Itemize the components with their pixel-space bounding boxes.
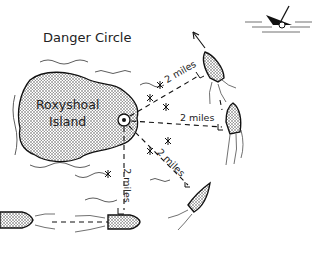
lighthouse-icon xyxy=(118,114,130,126)
island-name-line1: Roxyshoal xyxy=(36,96,99,113)
danger-circle-diagram: Danger Circle Roxyshoal Island 2 miles 2… xyxy=(0,0,325,255)
shipwreck-icon xyxy=(245,6,312,32)
distance-label-s: 2 miles xyxy=(122,168,133,202)
direction-arrow-icon xyxy=(193,32,205,48)
island-label: Roxyshoal Island xyxy=(36,96,99,130)
diagram-title: Danger Circle xyxy=(43,30,131,45)
distance-label-e: 2 miles xyxy=(180,112,214,123)
island-name-line2: Island xyxy=(36,113,99,130)
